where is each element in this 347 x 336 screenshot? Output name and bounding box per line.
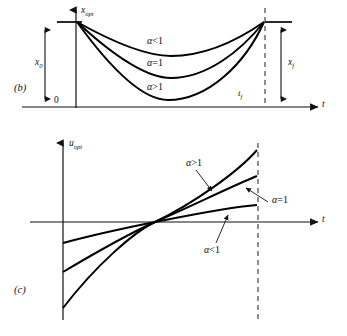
panel-c-y-axis-label: uopt — [69, 139, 82, 150]
panel-c-curve-alpha-equal-1 — [63, 176, 257, 272]
panel-b-curve-alpha-equal-1 — [77, 22, 264, 78]
panel-b-initial-value-label: x0 — [35, 58, 42, 69]
panel-c-x-axis-label: t — [322, 215, 325, 225]
panel-b-label-alpha-less-than-1: α<1 — [147, 36, 163, 46]
panel-b-curve-alpha-greater-than-1 — [77, 22, 264, 100]
panel-b-final-time-label: tf — [238, 89, 242, 100]
panel-b-y-axis-label: xopt — [81, 6, 93, 17]
panel-c-label-alpha-equal-1: α=1 — [272, 195, 288, 205]
panel-b-final-value-label: xf — [288, 58, 294, 69]
panel-c-leader-alpha-greater-than-1 — [196, 170, 212, 191]
panel-c-label-alpha-less-than-1: α<1 — [204, 245, 220, 255]
panel-c-curve-alpha-less-than-1 — [63, 205, 257, 243]
panel-c-tag: (c) — [14, 285, 26, 296]
panel-b-x-axis-label: t — [322, 100, 325, 110]
panel-c-leader-alpha-equal-1 — [246, 188, 268, 202]
panel-b-label-alpha-equal-1: α=1 — [147, 58, 163, 68]
panel-c-curve-alpha-greater-than-1 — [63, 150, 257, 308]
panel-b-tag: (b) — [14, 83, 26, 94]
figure-optimal-control-plots: xopt t x0 0 xf tf α<1 α=1 α>1 (b) uopt t… — [0, 0, 347, 336]
panel-b-origin-label: 0 — [54, 96, 59, 106]
panel-c-label-alpha-greater-than-1: α>1 — [186, 158, 202, 168]
panel-b-label-alpha-greater-than-1: α>1 — [147, 82, 163, 92]
figure-canvas — [0, 0, 347, 336]
panel-c-leader-alpha-less-than-1 — [216, 215, 228, 243]
